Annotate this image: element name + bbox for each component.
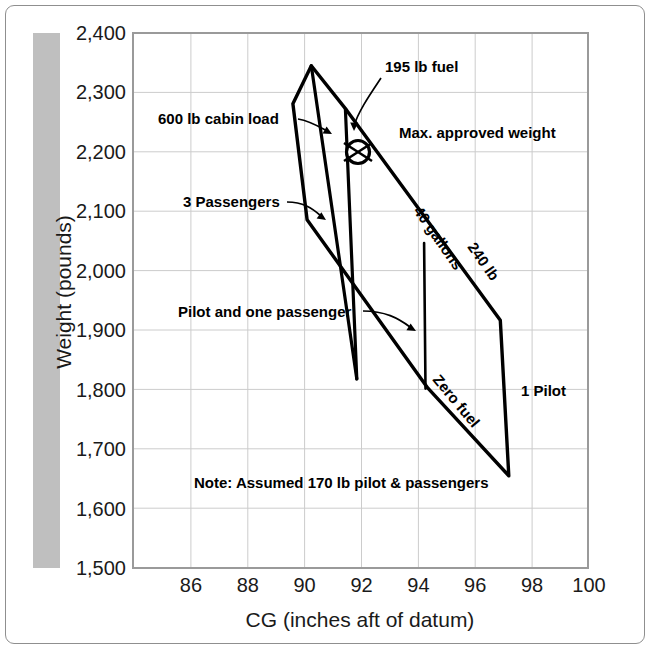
annotation-pilot-and-one-passenger: Pilot and one passenger [178,303,352,320]
x-tick-100: 100 [572,574,605,596]
x-tick-92: 92 [350,574,372,596]
x-tick-96: 96 [464,574,486,596]
y-tick-2400: 2,400 [76,22,126,44]
annotation-600-lb-cabin-load: 600 lb cabin load [158,110,279,127]
x-tick-94: 94 [407,574,429,596]
chart-canvas: 2,400 2,300 2,200 2,100 2,000 1,900 1,80… [0,0,652,651]
annotation-1-pilot: 1 Pilot [521,382,566,399]
x-tick-labels: 86 88 90 92 94 96 98 100 [180,574,606,596]
y-tick-1900: 1,900 [76,319,126,341]
y-tick-1500: 1,500 [76,557,126,579]
zero-fuel-vertical-line [424,243,425,389]
x-axis-title: CG (inches aft of datum) [246,608,475,631]
weight-and-balance-figure: Weight (pounds) [0,0,652,651]
x-tick-88: 88 [237,574,259,596]
y-tick-1700: 1,700 [76,438,126,460]
annotation-max-approved-weight: Max. approved weight [399,124,556,141]
computed-cg-point-marker [344,141,372,164]
x-tick-98: 98 [521,574,543,596]
y-tick-2200: 2,200 [76,141,126,163]
x-tick-86: 86 [180,574,202,596]
y-tick-1600: 1,600 [76,498,126,520]
y-tick-labels: 2,400 2,300 2,200 2,100 2,000 1,900 1,80… [76,22,126,579]
y-tick-2100: 2,100 [76,200,126,222]
y-tick-1800: 1,800 [76,379,126,401]
annotation-note: Note: Assumed 170 lb pilot & passengers [194,474,489,491]
y-tick-2000: 2,000 [76,260,126,282]
x-tick-90: 90 [293,574,315,596]
annotation-3-passengers: 3 Passengers [183,193,280,210]
y-tick-2300: 2,300 [76,81,126,103]
annotation-195-lb-fuel: 195 lb fuel [385,58,458,75]
